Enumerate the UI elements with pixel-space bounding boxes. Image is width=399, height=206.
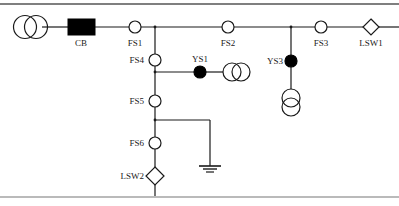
- lsw1-icon[interactable]: [363, 19, 379, 35]
- fs5-icon[interactable]: [149, 95, 161, 107]
- ys1-icon[interactable]: [194, 66, 206, 78]
- junction-dot-ground-tap: [154, 119, 157, 122]
- ys1-transformer-icon: [223, 63, 250, 81]
- ys1-label: YS1: [192, 54, 208, 64]
- fs6-icon[interactable]: [149, 137, 161, 149]
- junction-dot-ys3-tap: [290, 26, 293, 29]
- fs2-label: FS2: [221, 38, 236, 48]
- fs1-label: FS1: [128, 38, 143, 48]
- cb-label: CB: [75, 38, 87, 48]
- ys3-icon[interactable]: [285, 55, 297, 67]
- junction-dot-fs1-branch: [154, 26, 157, 29]
- lsw2-icon[interactable]: [146, 167, 164, 185]
- ys3-label: YS3: [267, 56, 284, 66]
- lsw2-label: LSW2: [121, 171, 145, 181]
- single-line-diagram: CB FS1 FS2 FS3 LSW1 FS4 FS5 FS6 LSW2 YS1…: [0, 0, 399, 206]
- fs5-label: FS5: [129, 96, 144, 106]
- junction-dot-ys1-tap: [154, 71, 157, 74]
- fs4-label: FS4: [129, 55, 144, 65]
- fs3-icon[interactable]: [315, 21, 327, 33]
- fs6-label: FS6: [129, 138, 144, 148]
- cb-icon[interactable]: [68, 19, 95, 35]
- fs2-icon[interactable]: [222, 21, 234, 33]
- fs3-label: FS3: [314, 38, 329, 48]
- fs4-icon[interactable]: [149, 54, 161, 66]
- fs1-icon[interactable]: [129, 21, 141, 33]
- lsw1-label: LSW1: [359, 38, 383, 48]
- ground-icon: [199, 166, 221, 172]
- device-labels: CB FS1 FS2 FS3 LSW1 FS4 FS5 FS6 LSW2 YS1…: [75, 38, 383, 181]
- diagram-canvas: CB FS1 FS2 FS3 LSW1 FS4 FS5 FS6 LSW2 YS1…: [0, 0, 399, 206]
- ys3-transformer-icon: [282, 89, 300, 116]
